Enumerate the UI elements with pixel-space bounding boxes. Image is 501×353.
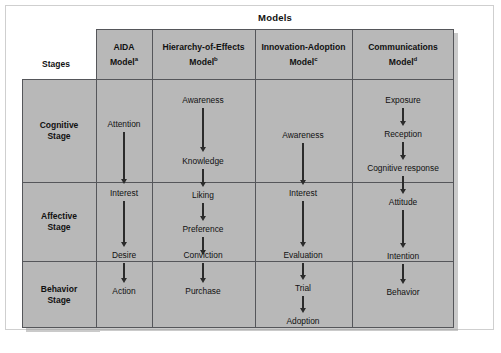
node-aida-action: Action [112,286,135,296]
node-hierarchy-preference: Preference [183,224,224,234]
stages-header-label: Stages [20,56,92,72]
column-header-innovation: Innovation-Adoption Modelc [255,33,352,77]
column-header-hierarchy-superscript: b [214,56,218,62]
column-header-comms-superscript: d [414,56,418,62]
node-hierarchy-awareness: Awareness [182,95,223,105]
node-comms-intention: Intention [387,251,419,261]
header-row-divider [96,79,454,80]
stage-row-behavior-line1: Behavior [41,284,77,294]
stage-row-behavior-line2: Stage [47,295,70,305]
column-header-hierarchy-line1: Hierarchy-of-Effects [162,42,244,52]
node-hierarchy-conviction: Conviction [183,250,222,260]
node-comms-reception: Reception [384,129,422,139]
column-header-aida: AIDA Modela [96,33,152,77]
node-innovation-awareness: Awareness [282,130,323,140]
node-innovation-adoption: Adoption [286,316,319,326]
column-header-comms: Communications Modeld [352,33,454,77]
node-aida-interest: Interest [110,188,138,198]
column-header-hierarchy: Hierarchy-of-Effects Modelb [152,33,255,77]
column-header-aida-superscript: a [135,56,138,62]
node-hierarchy-purchase: Purchase [185,286,220,296]
models-title: Models [96,10,454,26]
node-innovation-trial: Trial [295,283,311,293]
stage-row-behavior: Behavior Stage [22,261,96,328]
node-aida-attention: Attention [107,119,140,129]
stage-row-affective: Affective Stage [22,182,96,261]
stage-row-cognitive-line2: Stage [47,131,70,141]
stage-row-affective-line2: Stage [47,222,70,232]
node-aida-desire: Desire [112,250,136,260]
column-header-aida-line1: AIDA [113,42,134,52]
node-hierarchy-knowledge: Knowledge [182,156,223,166]
node-comms-cognitive-response: Cognitive response [367,163,439,173]
node-comms-exposure: Exposure [385,95,420,105]
stage-row-cognitive: Cognitive Stage [22,79,96,182]
node-comms-behavior: Behavior [386,287,419,297]
column-header-aida-line2: Model [110,56,135,66]
node-innovation-interest: Interest [289,188,317,198]
column-header-innovation-line1: Innovation-Adoption [261,42,345,52]
stage-row-cognitive-line1: Cognitive [40,120,79,130]
stage-row-affective-line1: Affective [41,211,77,221]
node-innovation-evaluation: Evaluation [283,250,322,260]
node-comms-attitude: Attitude [389,197,417,207]
column-header-hierarchy-line2: Model [189,56,214,66]
column-header-comms-line2: Model [389,56,414,66]
column-header-comms-line1: Communications [368,42,438,52]
column-header-innovation-superscript: c [314,56,317,62]
column-header-innovation-line2: Model [289,56,314,66]
node-hierarchy-liking: Liking [192,190,214,200]
